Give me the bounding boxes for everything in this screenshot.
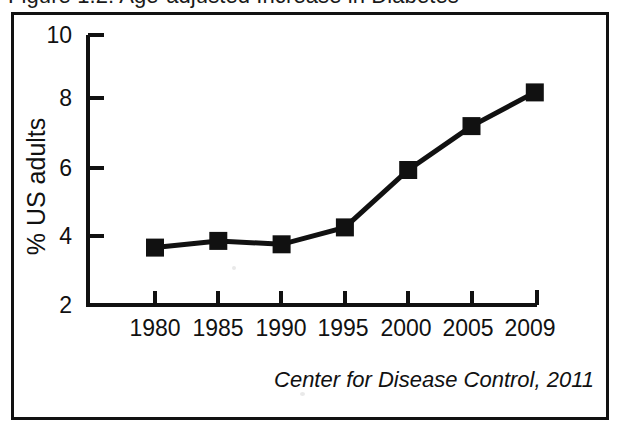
figure-title-clip: Figure 1.2: Age-adjusted Increase in Dia… (0, 0, 620, 11)
source-caption: Center for Disease Control, 2011 (274, 367, 594, 393)
page-title: Figure 1.2: Age-adjusted Increase in Dia… (8, 0, 459, 9)
figure-frame (11, 12, 609, 420)
